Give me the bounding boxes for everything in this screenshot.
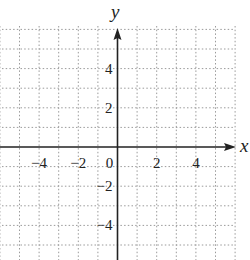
x-tick-label: 4 <box>192 155 200 171</box>
x-tick-label: 0 <box>106 155 114 171</box>
x-tick-labels: −4−2024 <box>31 155 200 171</box>
x-tick-label: 2 <box>153 155 161 171</box>
y-tick-label: 4 <box>105 61 113 77</box>
y-tick-label: 2 <box>105 100 113 116</box>
x-axis-label: x <box>239 135 249 156</box>
coordinate-plane: x y −4−2024 42−2−4 <box>0 0 250 260</box>
x-tick-label: −4 <box>31 155 47 171</box>
x-tick-label: −2 <box>70 155 86 171</box>
y-axis-label: y <box>109 1 120 22</box>
y-tick-label: −4 <box>97 217 113 233</box>
y-tick-label: −2 <box>97 178 113 194</box>
